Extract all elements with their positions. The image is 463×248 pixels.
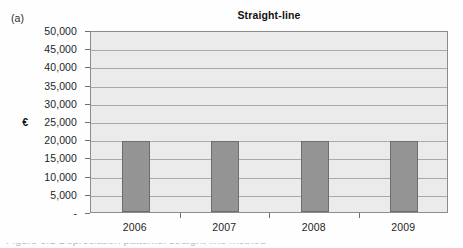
y-tick-label: 40,000 — [44, 61, 77, 73]
y-tick-label: 30,000 — [44, 98, 77, 110]
y-tick-label: 35,000 — [44, 80, 77, 92]
chart-title: Straight-line — [90, 9, 448, 21]
y-tick-label: - — [73, 207, 77, 219]
figure-caption-text: Figure 5.1 Depreciation patterns: straig… — [6, 243, 266, 246]
y-tick-label: 20,000 — [44, 134, 77, 146]
x-tick-label: 2009 — [359, 221, 449, 233]
bar — [301, 141, 329, 212]
gridline — [91, 123, 447, 124]
y-tick-label: 25,000 — [44, 116, 77, 128]
x-tick-label: 2006 — [90, 221, 180, 233]
y-tick-label: 5,000 — [50, 189, 77, 201]
y-axis: -5,00010,00015,00020,00025,00030,00035,0… — [0, 31, 90, 213]
figure-container: (a) Straight-line -5,00010,00015,00020,0… — [0, 0, 463, 248]
x-axis: 2006200720082009 — [90, 213, 448, 239]
figure-caption-sliver: Figure 5.1 Depreciation patterns: straig… — [0, 243, 463, 248]
currency-symbol: € — [22, 116, 28, 128]
y-tick-label: 45,000 — [44, 43, 77, 55]
y-tick-label: 10,000 — [44, 171, 77, 183]
y-tick-label: 15,000 — [44, 152, 77, 164]
x-tick-label: 2007 — [180, 221, 270, 233]
gridline — [91, 105, 447, 106]
gridline — [91, 68, 447, 69]
bar — [390, 141, 418, 212]
plot-inner — [91, 32, 447, 212]
x-tick-mark — [269, 213, 270, 218]
y-tick-label: 50,000 — [44, 25, 77, 37]
panel-label: (a) — [11, 12, 24, 24]
bar — [211, 141, 239, 212]
x-tick-mark — [180, 213, 181, 218]
gridline — [91, 87, 447, 88]
bar — [122, 141, 150, 212]
plot-area — [90, 31, 448, 213]
x-tick-label: 2008 — [269, 221, 359, 233]
gridline — [91, 50, 447, 51]
x-tick-mark — [359, 213, 360, 218]
